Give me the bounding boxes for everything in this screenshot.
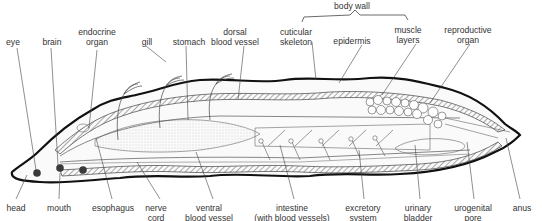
label-gill: gill	[142, 37, 153, 47]
label-excretory-system: excretorysystem	[345, 203, 380, 221]
label-epidermis: epidermis	[333, 36, 370, 46]
label-reproductive-organ: reproductiveorgan	[444, 25, 491, 45]
brain-dot	[56, 164, 64, 172]
label-ventral-blood-vessel: ventralblood vessel	[185, 203, 233, 221]
label-mouth: mouth	[47, 203, 71, 213]
label-anus: anus	[513, 203, 532, 213]
label-urinary-bladder: urinarybladder	[404, 203, 433, 221]
label-dorsal-blood-vessel: dorsalblood vessel	[211, 27, 259, 47]
label-stomach: stomach	[173, 37, 205, 47]
label-muscle-layers: musclelayers	[394, 25, 421, 45]
label-eye: eye	[6, 37, 20, 47]
label-nerve-cord: nervecord	[145, 203, 167, 221]
label-head: head	[6, 203, 25, 213]
group-label-body-wall: body wall	[334, 1, 370, 11]
eye-dot	[33, 169, 41, 177]
label-endocrine-organ: endocrineorgan	[78, 27, 116, 47]
body-wall-bracket	[302, 10, 408, 22]
label-urogenital-pore: urogenitalpore	[454, 203, 492, 221]
label-esophagus: esophagus	[92, 203, 134, 213]
label-intestine: intestine(with blood vessels)	[254, 203, 329, 221]
label-brain: brain	[42, 37, 61, 47]
label-cuticular-skeleton: cuticularskeleton	[280, 27, 312, 47]
endocrine-dot	[79, 166, 87, 174]
